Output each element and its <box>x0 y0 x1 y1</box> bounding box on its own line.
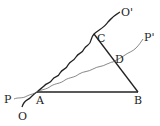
label-p: P <box>4 93 12 106</box>
label-a: A <box>35 94 45 107</box>
label-d: D <box>115 53 124 66</box>
label-oprime: O' <box>121 6 133 19</box>
curve-p-pprime <box>14 39 143 99</box>
label-b: B <box>134 94 142 107</box>
triangle-diagram: A B C D O O' P P' <box>0 0 160 126</box>
label-o: O <box>18 110 27 123</box>
label-c: C <box>97 32 105 45</box>
label-pprime: P' <box>144 31 154 44</box>
curve-o-oprime <box>22 12 120 107</box>
